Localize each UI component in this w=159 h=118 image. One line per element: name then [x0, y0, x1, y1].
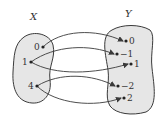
x-label-1: 1 — [22, 57, 28, 67]
y-point-neg1 — [115, 52, 118, 55]
x-point-1 — [29, 60, 32, 63]
x-label-0: 0 — [34, 42, 40, 52]
y-point-0 — [124, 39, 127, 42]
x-point-0 — [41, 45, 44, 48]
y-point-1 — [129, 62, 132, 65]
y-label-0: 0 — [129, 36, 135, 46]
relation-diagram: X Y 0 1 4 0 −1 1 −2 2 — [0, 0, 159, 118]
y-point-neg2 — [116, 84, 119, 87]
y-point-2 — [122, 96, 125, 99]
set-y-label: Y — [125, 8, 133, 19]
x-point-4 — [35, 84, 38, 87]
set-x-label: X — [29, 11, 38, 22]
x-label-4: 4 — [28, 81, 34, 91]
y-label-2: 2 — [127, 93, 133, 103]
y-label-neg1: −1 — [120, 49, 133, 59]
y-label-1: 1 — [134, 59, 140, 69]
y-label-neg2: −2 — [121, 81, 134, 91]
